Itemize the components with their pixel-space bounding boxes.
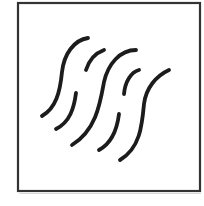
wavy-lines-icon xyxy=(0,0,204,206)
square-frame xyxy=(18,3,200,191)
wavy-lines-pictogram: 5 xyxy=(0,0,204,206)
